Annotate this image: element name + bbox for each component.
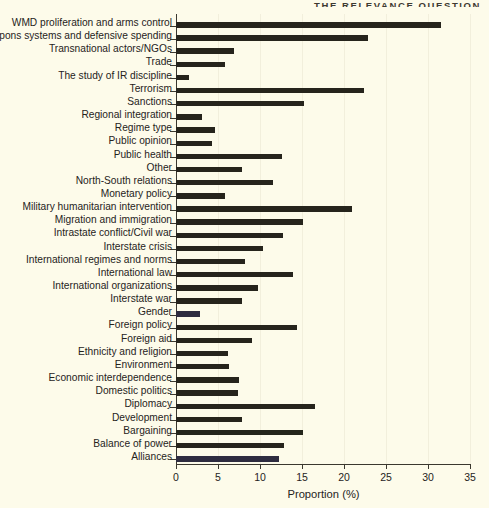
category-label: Alliances bbox=[0, 451, 172, 462]
category-label: Military humanitarian intervention bbox=[0, 201, 172, 212]
bar bbox=[176, 404, 315, 409]
category-label: Public health bbox=[0, 149, 172, 160]
category-label: Monetary policy bbox=[0, 188, 172, 199]
running-head-text: THE RELEVANCE QUESTION bbox=[314, 0, 481, 7]
category-label: Weapons systems and defensive spending bbox=[0, 30, 172, 41]
bar bbox=[176, 114, 202, 119]
category-label: Domestic politics bbox=[0, 385, 172, 396]
bar bbox=[176, 456, 279, 461]
category-label: Terrorism bbox=[0, 83, 172, 94]
category-label: Other bbox=[0, 162, 172, 173]
category-label: Regime type bbox=[0, 122, 172, 133]
running-head: THE RELEVANCE QUESTION bbox=[0, 0, 489, 7]
bar bbox=[176, 22, 441, 27]
category-label: Bargaining bbox=[0, 425, 172, 436]
x-axis-tick-label: 30 bbox=[408, 471, 448, 483]
x-axis-tick-label: 5 bbox=[198, 471, 238, 483]
x-axis-tick bbox=[218, 464, 219, 469]
category-label: Public opinion bbox=[0, 135, 172, 146]
x-axis-tick bbox=[470, 464, 471, 469]
category-label: Intrastate conflict/Civil war bbox=[0, 227, 172, 238]
bar bbox=[176, 35, 368, 40]
bar bbox=[176, 193, 225, 198]
x-axis-tick bbox=[428, 464, 429, 469]
category-label: Development bbox=[0, 412, 172, 423]
category-label: Diplomacy bbox=[0, 398, 172, 409]
x-axis-tick-label: 10 bbox=[240, 471, 280, 483]
bar bbox=[176, 325, 297, 330]
bar bbox=[176, 259, 245, 264]
category-label: Foreign aid bbox=[0, 333, 172, 344]
bar bbox=[176, 351, 228, 356]
x-axis-tick-label: 25 bbox=[366, 471, 406, 483]
category-label: Gender bbox=[0, 306, 172, 317]
bar bbox=[176, 48, 234, 53]
bar bbox=[176, 298, 242, 303]
bar bbox=[176, 62, 225, 67]
bar bbox=[176, 154, 282, 159]
bar bbox=[176, 443, 284, 448]
bar bbox=[176, 338, 252, 343]
category-label: Balance of power bbox=[0, 438, 172, 449]
category-label: International organizations bbox=[0, 280, 172, 291]
bar bbox=[176, 127, 215, 132]
bar bbox=[176, 101, 304, 106]
category-label: Ethnicity and religion bbox=[0, 346, 172, 357]
bar bbox=[176, 311, 200, 316]
bar bbox=[176, 88, 364, 93]
bar bbox=[176, 180, 273, 185]
bar bbox=[176, 167, 242, 172]
category-label: Foreign policy bbox=[0, 319, 172, 330]
x-axis-tick bbox=[302, 464, 303, 469]
category-label: Migration and immigration bbox=[0, 214, 172, 225]
bar bbox=[176, 246, 263, 251]
bar bbox=[176, 272, 293, 277]
x-axis-tick-label: 15 bbox=[282, 471, 322, 483]
bar bbox=[176, 285, 258, 290]
category-label: WMD proliferation and arms control bbox=[0, 17, 172, 28]
bar bbox=[176, 141, 212, 146]
x-axis-tick bbox=[176, 464, 177, 469]
bar-chart: WMD proliferation and arms controlWeapon… bbox=[0, 14, 489, 508]
x-axis-title: Proportion (%) bbox=[176, 488, 471, 500]
bar bbox=[176, 219, 303, 224]
x-axis-tick-label: 35 bbox=[450, 471, 489, 483]
category-label: Environment bbox=[0, 359, 172, 370]
bar bbox=[176, 233, 283, 238]
x-axis-tick-label: 0 bbox=[156, 471, 196, 483]
category-label: Trade bbox=[0, 56, 172, 67]
bar bbox=[176, 75, 189, 80]
x-axis-tick bbox=[344, 464, 345, 469]
category-label: Regional integration bbox=[0, 109, 172, 120]
bar bbox=[176, 430, 303, 435]
category-label: Economic interdependence bbox=[0, 372, 172, 383]
category-label: International law bbox=[0, 267, 172, 278]
bar-row: Alliances bbox=[0, 451, 489, 466]
category-label: Transnational actors/NGOs bbox=[0, 43, 172, 54]
bar bbox=[176, 364, 229, 369]
bar bbox=[176, 206, 352, 211]
category-label: Interstate war bbox=[0, 293, 172, 304]
category-label: Interstate crisis bbox=[0, 241, 172, 252]
x-axis-tick-label: 20 bbox=[324, 471, 364, 483]
bar bbox=[176, 417, 242, 422]
x-axis-tick bbox=[260, 464, 261, 469]
category-label: International regimes and norms bbox=[0, 254, 172, 265]
category-label: Sanctions bbox=[0, 96, 172, 107]
category-label: The study of IR discipline bbox=[0, 70, 172, 81]
bar bbox=[176, 390, 238, 395]
bar bbox=[176, 377, 239, 382]
x-axis-tick bbox=[386, 464, 387, 469]
category-label: North-South relations bbox=[0, 175, 172, 186]
